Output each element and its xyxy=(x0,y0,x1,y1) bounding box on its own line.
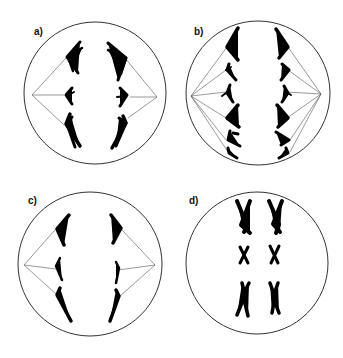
chromosomes-a-left xyxy=(66,42,82,147)
panel-d xyxy=(186,192,328,334)
cell-outline-a xyxy=(24,22,166,164)
chromosomes-c-right xyxy=(110,215,121,321)
mitosis-diagram xyxy=(0,0,343,358)
spindle-fibers-a xyxy=(32,58,157,125)
chromosomes-b-right xyxy=(276,29,291,158)
spindle-fibers-b xyxy=(191,47,321,152)
panel-a xyxy=(24,22,166,164)
panel-b xyxy=(186,21,330,165)
spindle-fibers-c xyxy=(24,230,155,296)
cell-outline-c xyxy=(18,192,162,336)
chromosomes-c-left xyxy=(56,215,71,321)
panel-c xyxy=(18,192,162,336)
chromosomes-a-right xyxy=(108,43,127,148)
chromosomes-d xyxy=(237,201,282,316)
cell-outline-d xyxy=(186,192,328,334)
